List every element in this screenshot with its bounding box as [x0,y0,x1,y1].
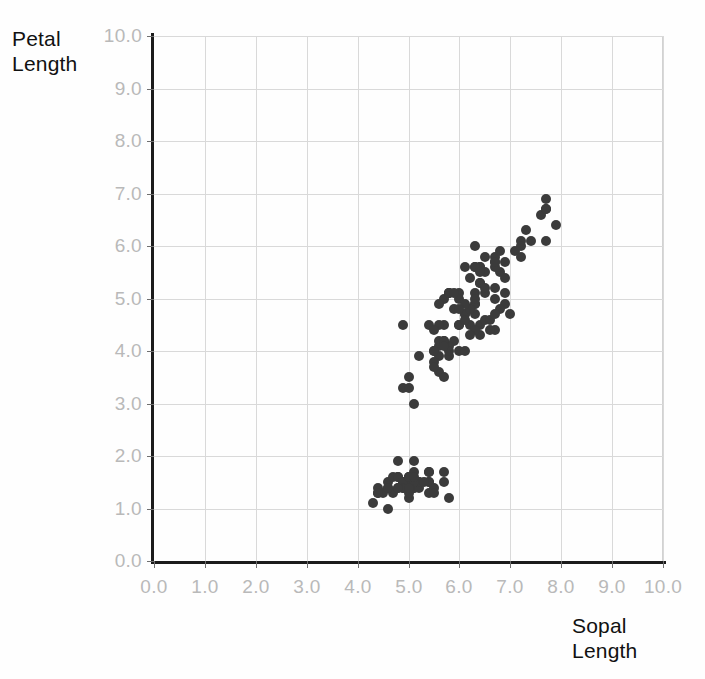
y-tick-mark [147,299,154,300]
x-tick-mark [205,561,206,568]
y-tick-mark [147,36,154,37]
data-point [439,341,449,351]
x-tick-mark [663,561,664,568]
x-tick-label: 9.0 [585,576,639,598]
data-point [393,456,403,466]
gridline-vertical [561,36,562,561]
y-tick-mark [147,194,154,195]
data-point [505,309,515,319]
data-point [404,383,414,393]
x-axis-title: Sopal Length [572,613,637,663]
x-tick-label: 7.0 [483,576,537,598]
data-point [424,467,434,477]
data-point [434,299,444,309]
data-point [465,273,475,283]
x-tick-label: 10.0 [636,576,690,598]
y-tick-label: 9.0 [88,78,142,100]
x-tick-mark [256,561,257,568]
y-tick-label: 3.0 [88,393,142,415]
data-point [470,241,480,251]
y-tick-label: 0.0 [88,550,142,572]
plot-area [154,36,663,561]
y-axis-title: Petal Length [12,26,77,76]
y-tick-mark [147,141,154,142]
data-point [516,241,526,251]
scatter-plot-figure: Petal Length Sopal Length 0.01.02.03.04.… [0,0,705,679]
x-tick-label: 4.0 [331,576,385,598]
gridline-vertical [205,36,206,561]
y-tick-mark [147,89,154,90]
data-point [541,236,551,246]
data-point [495,246,505,256]
y-tick-label: 10.0 [88,25,142,47]
y-tick-mark [147,404,154,405]
y-tick-label: 7.0 [88,183,142,205]
data-point [393,483,403,493]
gridline-vertical [358,36,359,561]
y-tick-label: 1.0 [88,498,142,520]
data-point [526,236,536,246]
data-point [409,456,419,466]
y-tick-label: 5.0 [88,288,142,310]
y-tick-label: 2.0 [88,445,142,467]
data-point [429,362,439,372]
x-tick-label: 0.0 [127,576,181,598]
data-point [409,472,419,482]
data-point [383,504,393,514]
y-tick-mark [147,456,154,457]
data-point [404,483,414,493]
data-point [480,252,490,262]
x-tick-mark [307,561,308,568]
y-tick-mark [147,561,154,562]
x-tick-mark [510,561,511,568]
data-point [485,325,495,335]
y-tick-mark [147,246,154,247]
data-point [383,483,393,493]
data-point [444,493,454,503]
x-tick-label: 6.0 [432,576,486,598]
gridline-vertical [510,36,511,561]
data-point [521,225,531,235]
x-tick-label: 3.0 [280,576,334,598]
x-tick-label: 2.0 [229,576,283,598]
data-point [500,273,510,283]
y-tick-label: 6.0 [88,235,142,257]
x-tick-label: 1.0 [178,576,232,598]
data-point [368,498,378,508]
data-point [414,351,424,361]
gridline-vertical [663,36,664,561]
data-point [409,399,419,409]
data-point [500,288,510,298]
data-point [490,309,500,319]
data-point [541,204,551,214]
data-point [516,252,526,262]
gridline-vertical [256,36,257,561]
data-point [429,325,439,335]
data-point [500,257,510,267]
data-point [541,194,551,204]
x-tick-mark [459,561,460,568]
x-tick-mark [409,561,410,568]
data-point [551,220,561,230]
x-tick-label: 8.0 [534,576,588,598]
data-point [490,257,500,267]
data-point [404,372,414,382]
x-tick-mark [561,561,562,568]
x-tick-label: 5.0 [382,576,436,598]
data-point [439,467,449,477]
gridline-vertical [612,36,613,561]
gridline-vertical [307,36,308,561]
x-tick-mark [358,561,359,568]
data-point [439,477,449,487]
data-point [460,262,470,272]
y-tick-label: 4.0 [88,340,142,362]
data-point [439,372,449,382]
data-point [429,488,439,498]
x-tick-mark [612,561,613,568]
y-tick-label: 8.0 [88,130,142,152]
data-point [470,294,480,304]
y-tick-mark [147,509,154,510]
data-point [490,283,500,293]
data-point [373,488,383,498]
data-point [490,294,500,304]
